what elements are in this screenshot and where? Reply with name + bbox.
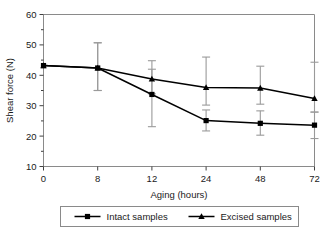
y-tick-label: 40 (26, 70, 37, 81)
y-tick-label: 50 (26, 39, 37, 50)
y-tick-label: 20 (26, 131, 37, 142)
series-2 (40, 62, 317, 101)
series-line (44, 66, 315, 99)
legend: Intact samplesExcised samples (61, 207, 299, 227)
y-tick-label: 60 (26, 9, 37, 20)
chart-canvas: 1020304050600812244872Aging (hours)Shear… (0, 0, 332, 233)
y-tick-label: 30 (26, 100, 37, 111)
x-tick-label: 8 (95, 173, 100, 184)
series-line (44, 66, 315, 126)
data-point-square (149, 92, 154, 97)
x-tick-label: 0 (41, 173, 46, 184)
legend-marker-square (85, 214, 90, 219)
legend-label: Excised samples (221, 211, 293, 222)
data-point-square (258, 121, 263, 126)
y-axis: 102030405060 (26, 9, 44, 172)
x-tick-label: 48 (255, 173, 266, 184)
x-axis-title: Aging (hours) (150, 189, 207, 200)
x-tick-label: 24 (201, 173, 212, 184)
shear-force-aging-chart: 1020304050600812244872Aging (hours)Shear… (0, 0, 332, 233)
x-axis: 0812244872 (41, 167, 320, 184)
y-tick-label: 10 (26, 161, 37, 172)
x-tick-label: 72 (309, 173, 320, 184)
data-point-square (204, 118, 209, 123)
legend-label: Intact samples (107, 211, 168, 222)
error-bar (202, 57, 210, 105)
x-tick-label: 12 (147, 173, 158, 184)
error-bar (311, 62, 319, 112)
y-axis-title: Shear force (N) (4, 58, 15, 123)
series-1 (41, 63, 317, 128)
data-point-square (312, 123, 317, 128)
